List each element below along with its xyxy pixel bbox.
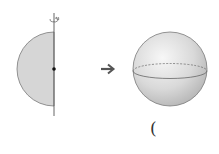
- sphere-shape: [133, 32, 207, 106]
- answer-parenthesis: (: [150, 120, 157, 137]
- semicircle-shape: [17, 32, 54, 106]
- semicircle-figure: [17, 13, 59, 116]
- center-point: [52, 67, 56, 71]
- diagram-canvas: [0, 0, 219, 154]
- sphere-figure: [133, 32, 207, 106]
- arrow-right-icon: [101, 65, 114, 74]
